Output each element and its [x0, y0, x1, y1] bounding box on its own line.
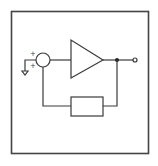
amplifier-icon — [71, 40, 103, 78]
summing-junction-icon — [36, 53, 50, 67]
feedback-block-icon — [71, 97, 103, 116]
feedback-loop-diagram: + + — [0, 0, 158, 166]
feedback-line-right — [103, 60, 117, 106]
sign-bottom: + — [30, 62, 36, 70]
output-terminal-icon — [133, 58, 137, 62]
feedback-line-left — [43, 67, 71, 106]
diagram-frame — [12, 12, 149, 154]
sign-top: + — [30, 50, 36, 58]
